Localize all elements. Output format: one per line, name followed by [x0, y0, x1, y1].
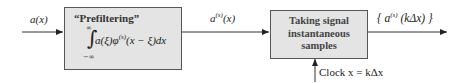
integral-lower-limit: −∞: [83, 53, 95, 61]
sample-sequence-sup: (s): [390, 11, 397, 19]
sample-sequence-label: { a(s) (kΔx) }: [377, 11, 433, 24]
prefiltered-signal-sup: (s): [216, 11, 223, 19]
input-signal-label: a(x): [30, 13, 48, 25]
sample-sequence-rest: (kΔx) }: [398, 12, 433, 24]
prefiltered-signal-arg: (x): [223, 12, 235, 24]
integrand-prefix: a(ξ)φ: [95, 34, 119, 46]
sampling-block: Taking signal instantaneous samples: [270, 10, 368, 59]
prefiltered-signal-label: a(s)(x): [210, 11, 235, 24]
prefiltering-block: “Prefiltering” ∞ ∫ −∞ a(ξ)φ(s)(x − ξ)dx: [64, 7, 182, 70]
clock-label: Clock x = kΔx: [319, 66, 383, 78]
sampling-block-text: Taking signal instantaneous samples: [271, 15, 367, 53]
integrand-suffix: (x − ξ)dx: [126, 34, 166, 46]
sampling-line-2: instantaneous: [271, 28, 367, 41]
prefilter-integrand: a(ξ)φ(s)(x − ξ)dx: [95, 33, 166, 46]
prefiltering-title: “Prefiltering”: [74, 12, 139, 24]
sampling-line-3: samples: [271, 40, 367, 53]
integrand-superscript: (s): [119, 33, 126, 41]
sample-sequence-open: { a: [377, 12, 390, 24]
sampling-line-1: Taking signal: [271, 15, 367, 28]
